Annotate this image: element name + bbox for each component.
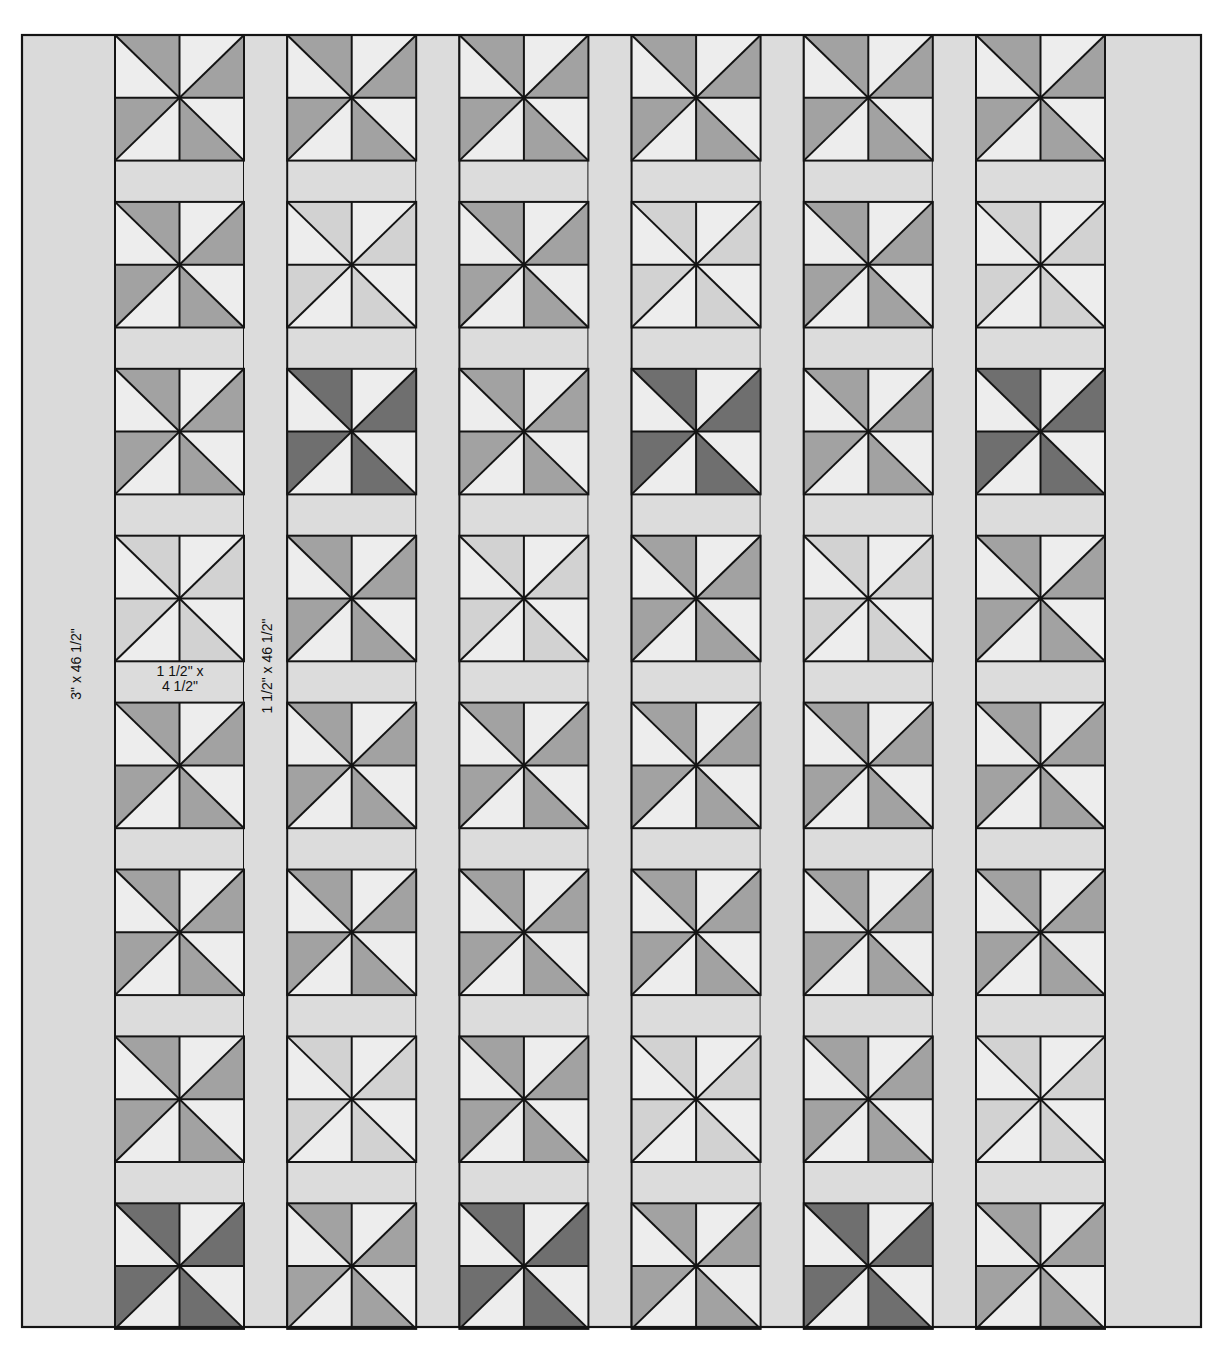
pinwheel-block <box>976 202 1105 328</box>
border-dimension-label: 3" x 46 1/2" <box>69 628 84 699</box>
block-center <box>866 1097 870 1101</box>
block-center <box>177 96 181 100</box>
block-center <box>522 429 526 433</box>
pinwheel-block <box>632 202 761 328</box>
block-center <box>177 263 181 267</box>
block-center <box>177 596 181 600</box>
block-center <box>522 96 526 100</box>
block-center <box>694 263 698 267</box>
pinwheel-block <box>804 35 933 161</box>
block-center <box>866 263 870 267</box>
block-center <box>522 596 526 600</box>
pinwheel-block <box>632 703 761 829</box>
pinwheel-block <box>115 35 244 161</box>
pinwheel-block <box>976 369 1105 495</box>
block-center <box>1038 763 1042 767</box>
pinwheel-block <box>115 369 244 495</box>
pinwheel-block <box>632 1036 761 1162</box>
block-center <box>866 763 870 767</box>
horizontal-sashing-label-line2: 4 1/2" <box>130 679 230 694</box>
block-center <box>1038 263 1042 267</box>
block-center <box>694 930 698 934</box>
pinwheel-block <box>287 536 416 662</box>
block-center <box>1038 1264 1042 1268</box>
pinwheel-block <box>287 870 416 996</box>
pinwheel-block <box>459 1036 588 1162</box>
block-center <box>177 1264 181 1268</box>
horizontal-sashing-dimension-label: 1 1/2" x 4 1/2" <box>130 664 230 694</box>
pinwheel-block <box>115 1036 244 1162</box>
pinwheel-block <box>804 1036 933 1162</box>
block-center <box>866 96 870 100</box>
vertical-sashing-strip <box>933 35 976 1327</box>
block-center <box>177 763 181 767</box>
block-center <box>1038 96 1042 100</box>
pinwheel-block <box>115 870 244 996</box>
block-center <box>694 96 698 100</box>
block-center <box>1038 429 1042 433</box>
pinwheel-block <box>287 1036 416 1162</box>
pinwheel-block <box>115 536 244 662</box>
pinwheel-block <box>115 703 244 829</box>
pinwheel-block <box>976 35 1105 161</box>
block-center <box>1038 596 1042 600</box>
pinwheel-block <box>976 536 1105 662</box>
block-center <box>177 1097 181 1101</box>
block-center <box>694 1097 698 1101</box>
pinwheel-block <box>976 1036 1105 1162</box>
pinwheel-block <box>804 703 933 829</box>
pinwheel-block <box>632 35 761 161</box>
pinwheel-block <box>459 35 588 161</box>
pinwheel-block <box>976 870 1105 996</box>
block-center <box>177 429 181 433</box>
block-center <box>694 763 698 767</box>
pinwheel-block <box>459 202 588 328</box>
pinwheel-block <box>115 202 244 328</box>
block-center <box>350 429 354 433</box>
pinwheel-block <box>632 536 761 662</box>
pinwheel-block <box>976 703 1105 829</box>
pinwheel-block <box>804 536 933 662</box>
pinwheel-block <box>459 369 588 495</box>
pinwheel-block <box>287 1203 416 1329</box>
block-center <box>866 596 870 600</box>
block-center <box>350 1097 354 1101</box>
block-center <box>350 930 354 934</box>
pinwheel-block <box>287 703 416 829</box>
block-center <box>522 1097 526 1101</box>
block-center <box>694 596 698 600</box>
horizontal-sashing-label-line1: 1 1/2" x <box>130 664 230 679</box>
block-center <box>694 429 698 433</box>
pinwheel-block <box>804 1203 933 1329</box>
vertical-sashing-strip <box>416 35 459 1327</box>
block-center <box>350 596 354 600</box>
pinwheel-block <box>632 870 761 996</box>
pinwheel-block <box>115 1203 244 1329</box>
block-center <box>866 930 870 934</box>
block-center <box>522 930 526 934</box>
pinwheel-block <box>804 870 933 996</box>
pinwheel-block <box>459 1203 588 1329</box>
vertical-sashing-dimension-label: 1 1/2" x 46 1/2" <box>260 619 275 714</box>
block-center <box>350 1264 354 1268</box>
vertical-sashing-strip <box>588 35 631 1327</box>
block-center <box>522 763 526 767</box>
pinwheel-block <box>804 369 933 495</box>
block-center <box>866 429 870 433</box>
block-center <box>177 930 181 934</box>
pinwheel-block <box>287 35 416 161</box>
block-center <box>350 763 354 767</box>
pinwheel-block <box>287 202 416 328</box>
block-center <box>522 1264 526 1268</box>
pinwheel-block <box>804 202 933 328</box>
pinwheel-block <box>459 536 588 662</box>
pinwheel-block <box>632 369 761 495</box>
vertical-sashing-strip <box>761 35 804 1327</box>
pinwheel-block <box>459 870 588 996</box>
block-center <box>866 1264 870 1268</box>
block-center <box>1038 930 1042 934</box>
pinwheel-block <box>287 369 416 495</box>
pinwheel-block <box>976 1203 1105 1329</box>
block-center <box>522 263 526 267</box>
pinwheel-block <box>632 1203 761 1329</box>
